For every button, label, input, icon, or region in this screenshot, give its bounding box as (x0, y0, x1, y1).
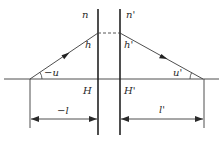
angle-arc-u (40, 72, 42, 79)
optics-diagram: n n' h h' −u u' H H' −l l' (0, 0, 222, 143)
label-n: n (82, 9, 88, 20)
incident-ray-arrow-icon (62, 53, 70, 60)
label-h-prime: h' (124, 39, 133, 50)
angle-arc-u-prime (190, 73, 192, 79)
label-l-prime: l' (159, 104, 165, 115)
label-u-prime: u' (173, 67, 182, 78)
label-H: H (82, 85, 92, 96)
label-H-prime: H' (123, 85, 135, 96)
label-l: −l (57, 105, 69, 116)
label-n-prime: n' (126, 9, 135, 20)
label-h: h (85, 39, 91, 50)
label-u: −u (44, 67, 59, 78)
